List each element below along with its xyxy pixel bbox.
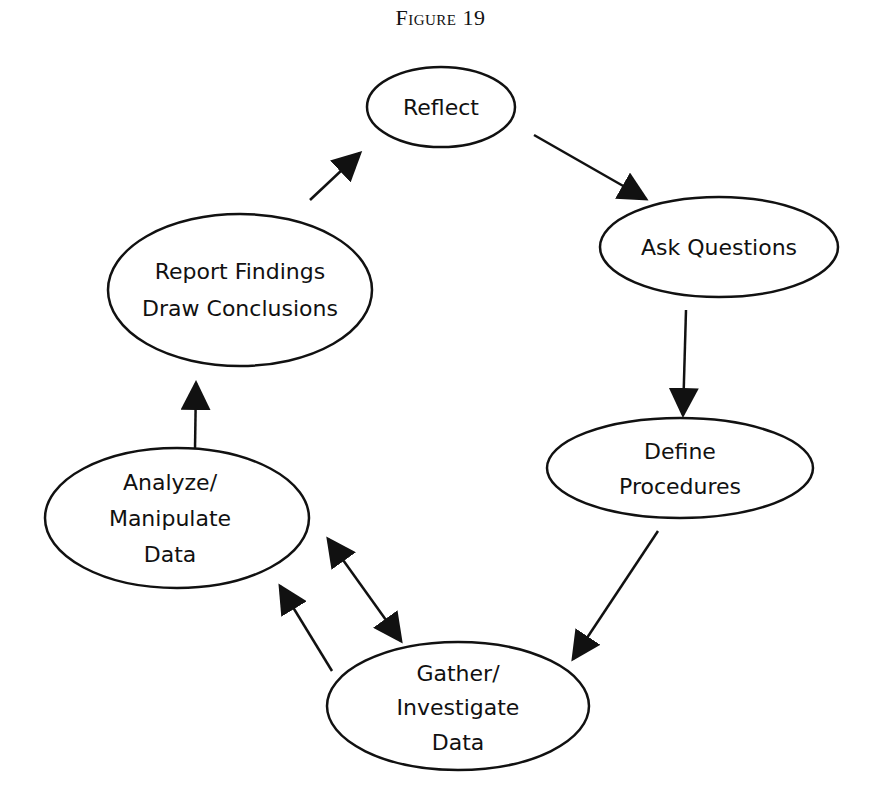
- node-define-procedures: Define Procedures: [547, 418, 813, 518]
- node-reflect: Reflect: [367, 67, 515, 147]
- node-report-findings-label-2: Draw Conclusions: [142, 296, 338, 321]
- arrow-reflect-to-ask-questions: [534, 135, 646, 199]
- node-gather-investigate: Gather/ Investigate Data: [327, 642, 589, 770]
- node-analyze-manipulate-label-2: Manipulate: [109, 506, 231, 531]
- arrow-gather-to-analyze: [280, 586, 332, 671]
- cycle-diagram: Reflect Ask Questions Define Procedures …: [0, 0, 881, 808]
- node-gather-investigate-label-2: Investigate: [397, 695, 520, 720]
- node-report-findings: Report Findings Draw Conclusions: [108, 214, 372, 366]
- arrow-analyze-gather-bidirectional: [328, 539, 401, 641]
- node-define-procedures-label-2: Procedures: [619, 474, 741, 499]
- node-ask-questions: Ask Questions: [600, 197, 838, 297]
- node-define-procedures-label-1: Define: [644, 439, 716, 464]
- arrow-ask-questions-to-define-procedures: [683, 310, 686, 415]
- arrow-analyze-to-report-findings: [195, 383, 196, 449]
- node-analyze-manipulate-label-1: Analyze/: [123, 470, 218, 495]
- node-analyze-manipulate-label-3: Data: [144, 542, 197, 567]
- node-reflect-label: Reflect: [403, 95, 479, 120]
- arrow-define-procedures-to-gather: [573, 531, 658, 659]
- node-report-findings-ellipse: [108, 214, 372, 366]
- node-gather-investigate-label-3: Data: [432, 730, 485, 755]
- node-analyze-manipulate: Analyze/ Manipulate Data: [45, 448, 309, 588]
- node-define-procedures-ellipse: [547, 418, 813, 518]
- node-ask-questions-label: Ask Questions: [641, 235, 797, 260]
- node-report-findings-label-1: Report Findings: [155, 259, 325, 284]
- node-gather-investigate-label-1: Gather/: [416, 661, 500, 686]
- arrow-report-findings-to-reflect: [310, 153, 360, 200]
